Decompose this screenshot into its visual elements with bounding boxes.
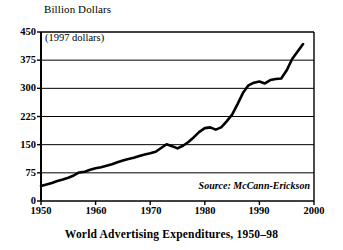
axis-ticks	[37, 32, 314, 205]
data-line-world-advertising	[41, 44, 303, 186]
gridlines	[41, 32, 314, 201]
plot-area	[0, 0, 343, 250]
chart-figure: Billion Dollars (1997 dollars) Source: M…	[0, 0, 343, 250]
